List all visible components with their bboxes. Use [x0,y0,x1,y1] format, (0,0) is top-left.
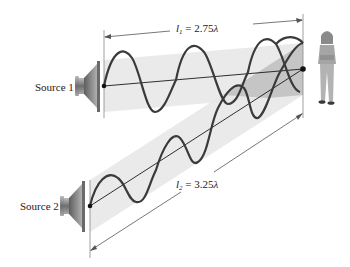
source-2-point [88,204,93,209]
path-length-label-1: l1 = 2.75λ [176,22,219,36]
path-length-label-2: l2 = 3.25λ [176,178,219,192]
arrowhead-icon [296,113,303,120]
person-listener-icon [318,31,336,105]
speaker-icon [60,181,85,232]
speaker-icon [75,61,100,112]
arrowhead-icon [104,34,111,39]
arrowhead-icon [296,18,303,23]
source-1-point [102,84,107,89]
listener-point [300,66,306,72]
arrowhead-icon [90,245,97,251]
interference-diagram: l1 = 2.75λ l2 = 3.25λ Source 1 Source 2 [0,0,350,267]
source-1-label: Source 1 [35,81,74,93]
source-2-label: Source 2 [20,200,59,212]
